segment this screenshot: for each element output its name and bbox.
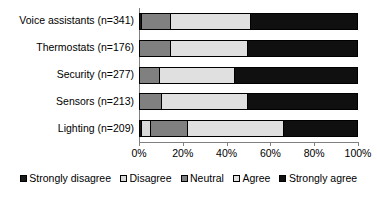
legend-item: Agree (233, 172, 271, 185)
axis-tick (183, 142, 184, 146)
legend-item: Neutral (181, 172, 224, 185)
legend-label: Neutral (190, 172, 224, 185)
legend-label: Strongly disagree (29, 172, 111, 185)
x-axis-tick-label: 80% (294, 147, 334, 160)
bar-segment (251, 13, 358, 30)
bar-segment (139, 93, 162, 110)
legend-label: Agree (242, 172, 270, 185)
axis-tick (358, 142, 359, 146)
legend-swatch-icon (279, 175, 286, 182)
bar-row (139, 67, 358, 84)
plot-area (139, 8, 358, 142)
legend-item: Strongly agree (279, 172, 357, 185)
bar-segment (188, 120, 283, 137)
legend-item: Disagree (120, 172, 172, 185)
legend-swatch-icon (120, 175, 127, 182)
bar-segment (162, 93, 249, 110)
bar-segment (284, 120, 358, 137)
legend-swatch-icon (20, 175, 27, 182)
legend-swatch-icon (233, 175, 240, 182)
bar-segment (142, 120, 151, 137)
bar-row (139, 13, 358, 30)
bar-row (139, 120, 358, 137)
axis-tick (227, 142, 228, 146)
bar-row (139, 93, 358, 110)
bar-row (139, 40, 358, 57)
bar-segment (139, 67, 160, 84)
x-axis-tick-label: 0% (119, 147, 159, 160)
bar-segment (171, 40, 249, 57)
bar-segment (235, 67, 358, 84)
legend-swatch-icon (181, 175, 188, 182)
legend-label: Strongly agree (289, 172, 357, 185)
category-label: Lighting (n=209) (0, 122, 134, 135)
value-axis-line (139, 142, 359, 143)
axis-tick (270, 142, 271, 146)
category-label: Sensors (n=213) (0, 95, 134, 108)
axis-tick (314, 142, 315, 146)
category-label: Security (n=277) (0, 68, 134, 81)
chart-legend: Strongly disagreeDisagreeNeutralAgreeStr… (0, 172, 377, 185)
bar-segment (248, 40, 358, 57)
x-axis-tick-label: 60% (250, 147, 290, 160)
legend-item: Strongly disagree (20, 172, 111, 185)
bar-segment (248, 93, 358, 110)
axis-tick (139, 142, 140, 146)
bar-segment (160, 67, 236, 84)
bar-segment (142, 13, 170, 30)
stacked-bar-chart: 0%20%40%60%80%100% Voice assistants (n=3… (0, 0, 377, 199)
bar-segment (139, 40, 171, 57)
x-axis-tick-label: 100% (338, 147, 377, 160)
x-axis-tick-label: 40% (207, 147, 247, 160)
category-label: Thermostats (n=176) (0, 41, 134, 54)
legend-label: Disagree (130, 172, 172, 185)
x-axis-tick-label: 20% (163, 147, 203, 160)
bar-segment (171, 13, 251, 30)
bar-segment (151, 120, 188, 137)
category-label: Voice assistants (n=341) (0, 14, 134, 27)
